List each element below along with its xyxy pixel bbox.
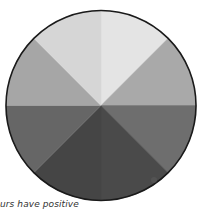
wheel-segments [6,11,196,201]
blemish-spot [151,177,157,183]
value-wheel [0,0,201,211]
caption-text: urs have positive [0,199,79,209]
